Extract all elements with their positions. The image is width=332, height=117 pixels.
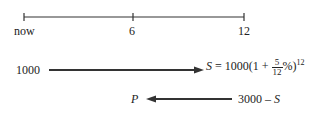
remaining-amount: 3000 – S — [238, 92, 280, 107]
var-s: S — [206, 59, 212, 73]
arrow-left — [146, 96, 232, 103]
tick-label-now: now — [14, 24, 35, 39]
exponent: 12 — [297, 58, 305, 67]
principal-value: 1000 — [16, 63, 40, 78]
future-value-formula: S = 1000(1 + 512%)12 — [206, 58, 305, 77]
rate-fraction: 512 — [272, 58, 283, 77]
arrow-right — [49, 67, 204, 74]
present-value-label: P — [131, 92, 138, 107]
formula-tail: %) — [283, 59, 297, 73]
tick-label-6: 6 — [129, 24, 135, 39]
amount-3000: 3000 – — [238, 92, 271, 106]
formula-eq: = 1000(1 + — [215, 59, 269, 73]
var-s-2: S — [274, 92, 280, 106]
tick-label-12: 12 — [238, 24, 250, 39]
frac-den: 12 — [272, 68, 283, 77]
